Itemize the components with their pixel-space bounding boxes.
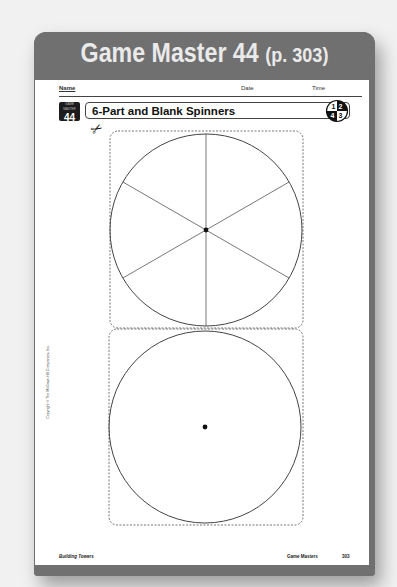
card-title: Game Master 44 (p. 303) [58,38,351,69]
footer-unit-name: Building Towers [59,554,94,559]
blank-spinner [109,331,301,523]
six-part-spinner [110,134,302,326]
card-title-text: Game Master 44 [81,38,259,68]
card-page-ref: (p. 303) [265,43,328,66]
worksheet-page: Name Date Time GAME MASTER 44 6-Part and… [35,80,369,565]
game-master-card: Game Master 44 (p. 303) Name Date Time G… [34,32,375,576]
footer-page-number: 303 [342,554,350,559]
footer-section: Game Masters [287,554,318,559]
copyright-text: Copyright © The McGraw-Hill Companies, I… [46,312,50,452]
spinners [35,80,369,565]
